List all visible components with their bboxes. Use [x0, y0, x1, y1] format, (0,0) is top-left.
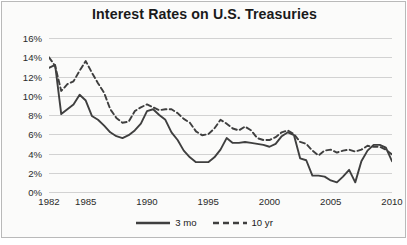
- series-line-3-mo: [49, 65, 392, 182]
- legend-swatch-dashed: [213, 219, 247, 227]
- y-axis-tick-label: 12%: [6, 71, 42, 82]
- legend-label-3-mo: 3 mo: [175, 217, 196, 228]
- y-axis-tick-label: 4%: [6, 148, 42, 159]
- legend-swatch-solid: [136, 219, 170, 227]
- y-axis-tick-label: 2%: [6, 167, 42, 178]
- gridline: [49, 192, 392, 193]
- legend-label-10-yr: 10 yr: [252, 217, 273, 228]
- x-axis-tick-label: 1982: [38, 196, 59, 207]
- x-axis-tick-label: 2010: [381, 196, 402, 207]
- y-axis-tick-label: 14%: [6, 52, 42, 63]
- y-axis-tick-label: 0%: [6, 187, 42, 198]
- x-axis-tick-label: 1985: [75, 196, 96, 207]
- chart-title: Interest Rates on U.S. Treasuries: [2, 6, 406, 22]
- x-axis-tick-label: 2005: [320, 196, 341, 207]
- y-axis-tick-label: 6%: [6, 129, 42, 140]
- chart-plot-area: [49, 38, 392, 192]
- y-axis-tick-label: 16%: [6, 33, 42, 44]
- x-axis-tick-label: 1995: [198, 196, 219, 207]
- y-axis-tick-label: 8%: [6, 110, 42, 121]
- y-axis-tick-label: 10%: [6, 90, 42, 101]
- x-axis-tick-label: 2000: [259, 196, 280, 207]
- legend-item-10-yr: 10 yr: [213, 217, 273, 228]
- series-line-10-yr: [49, 57, 392, 155]
- x-axis-tick-label: 1990: [136, 196, 157, 207]
- legend-item-3-mo: 3 mo: [136, 217, 196, 228]
- chart-legend: 3 mo 10 yr: [2, 217, 406, 228]
- chart-container: Interest Rates on U.S. Treasuries 16%14%…: [1, 1, 406, 238]
